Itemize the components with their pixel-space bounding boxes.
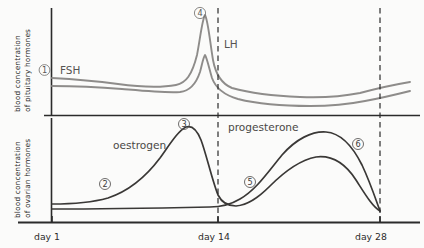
marker-6-number: 6	[355, 139, 360, 149]
x-tick-label-day-1: day 1	[34, 231, 60, 242]
fsh-label: FSH	[60, 64, 80, 76]
marker-3-number: 3	[181, 119, 186, 129]
marker-1-number: 1	[42, 65, 47, 75]
oestrogen-label: oestrogen	[113, 139, 166, 151]
marker-2-number: 2	[102, 179, 107, 189]
marker-4-number: 4	[197, 8, 202, 18]
progesterone-label: progesterone	[228, 121, 299, 133]
x-tick-label-day-28: day 28	[355, 231, 387, 242]
bottom-axis-label-line2: of ovarian hormones	[23, 139, 32, 218]
x-tick-label-day-14: day 14	[198, 231, 230, 242]
menstrual-cycle-hormone-diagram: blood concentration of pituitary hormone…	[0, 0, 424, 248]
marker-5-number: 5	[247, 177, 252, 187]
lh-label: LH	[224, 38, 238, 50]
top-axis-label-line2: of pituitary hormones	[23, 29, 32, 112]
bottom-axis-label-line1: blood concentration	[13, 141, 22, 218]
top-axis-label-line1: blood concentration	[13, 35, 22, 112]
canvas-background	[0, 0, 424, 248]
diagram-canvas: blood concentration of pituitary hormone…	[0, 0, 424, 248]
